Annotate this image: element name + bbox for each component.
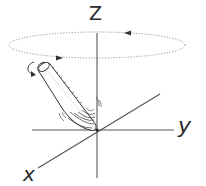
spinning-top [37,61,101,131]
z-axis-label: Z [89,4,102,23]
origin-point [95,128,98,131]
x-axis-label: x [23,164,35,184]
spin-arrow-icon [28,62,36,77]
precession-diagram [0,0,206,186]
y-axis-label: y [178,115,191,137]
orbit-arrow-bottom-icon [56,56,63,61]
orbit-arrow-top-icon [124,31,131,36]
